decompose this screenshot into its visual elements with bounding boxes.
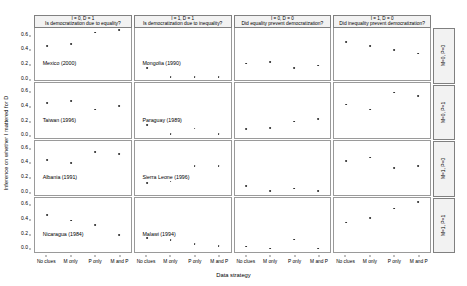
row-strip-label: M=0, P=0 bbox=[442, 45, 447, 66]
y-tick-mark bbox=[29, 121, 31, 122]
x-tick-label: No clues bbox=[137, 259, 156, 264]
x-tick-mark bbox=[319, 255, 320, 257]
x-tick-label: P only bbox=[188, 259, 201, 264]
y-tick-label: 0.6 bbox=[21, 200, 28, 206]
data-point bbox=[393, 167, 395, 169]
data-point bbox=[170, 133, 172, 135]
panel-case-label: Nicaragua (1984) bbox=[43, 231, 84, 237]
y-tick-mark bbox=[29, 178, 31, 179]
facet-panel-r3-c2 bbox=[234, 197, 332, 253]
facet-panel-r2-c0: Albania (1991) bbox=[34, 140, 132, 196]
facet-panel-r0-c0: Mexico (2000) bbox=[34, 25, 132, 81]
data-point bbox=[345, 222, 347, 224]
column-strip-3: I = 1, D = 0Did inequality prevent democ… bbox=[333, 15, 431, 28]
data-point bbox=[70, 100, 72, 102]
y-tick-label: 0.4 bbox=[21, 158, 28, 164]
data-point bbox=[246, 185, 248, 187]
x-tick-mark bbox=[219, 255, 220, 257]
data-point bbox=[170, 76, 172, 78]
x-tick-label: M only bbox=[263, 259, 277, 264]
data-point bbox=[293, 120, 295, 122]
data-point bbox=[246, 245, 248, 247]
column-strip-1: I = 1, D = 1Is democratization due to in… bbox=[134, 15, 232, 28]
y-tick-mark bbox=[29, 219, 31, 220]
facet-panel-r0-c1: Mongolia (1990) bbox=[134, 25, 232, 81]
y-tick-row-0: 0.00.20.40.6 bbox=[12, 28, 31, 85]
y-tick-mark bbox=[29, 65, 31, 66]
chart-figure: Inference on whether I mattered for D 0.… bbox=[0, 0, 467, 286]
data-point bbox=[317, 118, 319, 120]
data-point bbox=[218, 76, 220, 78]
data-point bbox=[417, 53, 419, 55]
panel-case-label: Taiwan (1996) bbox=[43, 117, 76, 123]
data-point bbox=[345, 41, 347, 43]
y-tick-mark bbox=[29, 148, 31, 149]
data-point bbox=[118, 153, 120, 155]
data-point bbox=[194, 127, 196, 129]
x-tick-mark bbox=[70, 255, 71, 257]
x-tick-label: P only bbox=[288, 259, 301, 264]
data-point bbox=[345, 103, 347, 105]
facet-panel-r2-c1: Sierra Leone (1996) bbox=[134, 140, 232, 196]
data-point bbox=[94, 151, 96, 153]
x-tick-label: M only bbox=[64, 259, 78, 264]
column-strip-question: Did equality prevent democratization? bbox=[241, 21, 323, 26]
data-point bbox=[146, 67, 148, 69]
data-point bbox=[170, 180, 172, 182]
y-tick-label: 0.6 bbox=[21, 87, 28, 93]
data-point bbox=[194, 165, 196, 167]
x-tick-mark bbox=[369, 255, 370, 257]
column-strip-question: Is democratization due to inequality? bbox=[143, 21, 222, 26]
y-tick-row-1: 0.00.20.40.6 bbox=[12, 85, 31, 142]
data-point bbox=[246, 62, 248, 64]
x-tick-label: M and P bbox=[111, 259, 129, 264]
x-tick-mark bbox=[194, 255, 195, 257]
facet-panel-r1-c3 bbox=[333, 82, 431, 138]
x-tick-col-1: No cluesM onlyP onlyM and P bbox=[134, 255, 232, 267]
data-point bbox=[70, 219, 72, 221]
data-point bbox=[218, 165, 220, 167]
column-strip-question: Is democratization due to equality? bbox=[45, 21, 121, 26]
data-point bbox=[218, 133, 220, 135]
y-tick-label: 0.2 bbox=[21, 60, 28, 66]
data-point bbox=[270, 248, 272, 250]
data-point bbox=[417, 95, 419, 97]
data-point bbox=[194, 76, 196, 78]
y-tick-label: 0.0 bbox=[21, 188, 28, 194]
x-tick-label: No clues bbox=[37, 259, 56, 264]
y-tick-label: 0.2 bbox=[21, 117, 28, 123]
data-point bbox=[146, 124, 148, 126]
x-tick-mark bbox=[345, 255, 346, 257]
x-tick-mark bbox=[294, 255, 295, 257]
data-point bbox=[46, 214, 48, 216]
x-tick-mark bbox=[394, 255, 395, 257]
y-tick-label: 0.2 bbox=[21, 230, 28, 236]
facet-panel-r0-c2 bbox=[234, 25, 332, 81]
x-axis-ticks: No cluesM onlyP onlyM and PNo cluesM onl… bbox=[33, 255, 432, 267]
x-tick-mark bbox=[245, 255, 246, 257]
x-tick-col-3: No cluesM onlyP onlyM and P bbox=[333, 255, 431, 267]
x-tick-label: M and P bbox=[410, 259, 428, 264]
x-tick-label: No clues bbox=[236, 259, 255, 264]
x-tick-mark bbox=[119, 255, 120, 257]
data-point bbox=[369, 108, 371, 110]
data-point bbox=[393, 92, 395, 94]
data-point bbox=[170, 239, 172, 241]
column-strip-2: I = 0, D = 0Did equality prevent democra… bbox=[234, 15, 332, 28]
data-point bbox=[94, 108, 96, 110]
x-tick-mark bbox=[170, 255, 171, 257]
data-point bbox=[393, 207, 395, 209]
data-point bbox=[146, 182, 148, 184]
y-tick-mark bbox=[29, 136, 31, 137]
panel-case-label: Paraguay (1989) bbox=[142, 117, 181, 123]
data-point bbox=[317, 65, 319, 67]
data-point bbox=[393, 49, 395, 51]
facet-panel-r3-c3 bbox=[333, 197, 431, 253]
column-strip-0: I = 0, D = 1Is democratization due to eq… bbox=[34, 15, 132, 28]
x-tick-label: M only bbox=[363, 259, 377, 264]
y-tick-mark bbox=[29, 92, 31, 93]
y-tick-label: 0.4 bbox=[21, 215, 28, 221]
facet-panel-r1-c0: Taiwan (1996) bbox=[34, 82, 132, 138]
x-tick-label: P only bbox=[88, 259, 101, 264]
x-tick-label: No clues bbox=[336, 259, 355, 264]
